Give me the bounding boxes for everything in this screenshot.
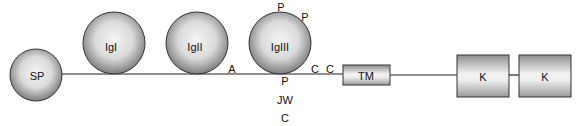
igIII-label: IgIII [271, 42, 289, 53]
annotation-p-below: P [281, 76, 288, 87]
annotation-p-top: P [277, 2, 284, 13]
kinase-1-label: K [479, 72, 486, 83]
igI-label: IgI [105, 42, 117, 53]
annotation-p-top-right: P [301, 12, 308, 23]
annotation-jw: JW [277, 95, 293, 106]
sp-label: SP [30, 71, 45, 82]
domain-diagram [0, 0, 582, 126]
igII-label: IgII [187, 42, 202, 53]
kinase-2-label: K [541, 72, 548, 83]
annotation-a: A [228, 64, 235, 75]
annotation-c-1: C [311, 64, 319, 75]
tm-label: TM [358, 71, 374, 82]
annotation-c-below: C [281, 113, 289, 124]
annotation-c-2: C [326, 64, 334, 75]
